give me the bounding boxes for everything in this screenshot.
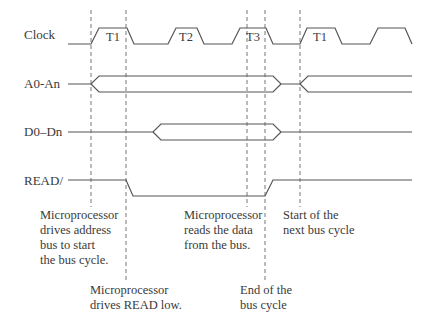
clock-period-label: T1 — [106, 30, 120, 44]
annotation-line: next bus cycle — [283, 223, 355, 238]
annotation-line: Microprocessor — [90, 283, 182, 298]
clock-period-label: T3 — [246, 30, 260, 44]
address-bus-waveform — [68, 76, 412, 92]
signal-label-data-bus: D0–Dn — [24, 124, 62, 139]
annotation-line: Microprocessor — [40, 208, 118, 223]
annotation-line: from the bus. — [184, 238, 262, 253]
annotation-line: the bus cycle. — [40, 253, 118, 268]
data-bus-waveform — [68, 124, 412, 140]
signal-label-clock: Clock — [24, 27, 55, 42]
annotation-line: bus cycle — [240, 298, 292, 313]
annotation-line: Start of the — [283, 208, 355, 223]
annotation-reads-data: Microprocessor reads the data from the b… — [184, 208, 262, 253]
annotation-line: Microprocessor — [184, 208, 262, 223]
annotation-drives-read-low: Microprocessor drives READ low. — [90, 283, 182, 313]
signal-label-address-bus: A0-An — [24, 76, 60, 91]
annotation-drives-address: Microprocessor drives address bus to sta… — [40, 208, 118, 268]
bus-timing-diagram: T1 T2 T3 T1 — [0, 0, 433, 327]
annotation-end-of-cycle: End of the bus cycle — [240, 283, 292, 313]
annotation-line: reads the data — [184, 223, 262, 238]
annotation-line: End of the — [240, 283, 292, 298]
read-signal-waveform — [68, 180, 412, 196]
annotation-line: drives READ low. — [90, 298, 182, 313]
signal-label-read: READ/ — [24, 173, 63, 188]
annotation-line: bus to start — [40, 238, 118, 253]
clock-period-label: T2 — [179, 30, 193, 44]
annotation-line: drives address — [40, 223, 118, 238]
annotation-next-cycle: Start of the next bus cycle — [283, 208, 355, 238]
clock-period-label: T1 — [313, 30, 327, 44]
